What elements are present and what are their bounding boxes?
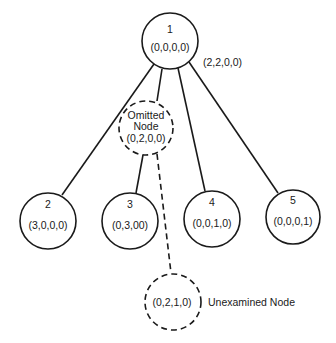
node-5: 5 (0,0,0,1) bbox=[266, 190, 320, 244]
node-2-label: 2 bbox=[45, 198, 51, 210]
edge-1-to-omitted bbox=[157, 69, 162, 101]
node-1: 1 (0,0,0,0) bbox=[142, 13, 198, 69]
node-1-label: 1 bbox=[167, 23, 173, 35]
edge-1-to-5 bbox=[189, 62, 278, 193]
unexamined-node-state: (0,2,1,0) bbox=[152, 296, 191, 308]
node-2: 2 (3,0,0,0) bbox=[20, 193, 76, 249]
node-1-state: (0,0,0,0) bbox=[150, 41, 189, 53]
unexamined-node-caption: Unexamined Node bbox=[208, 296, 295, 308]
node-3-label: 3 bbox=[127, 198, 133, 210]
node-5-state: (0,0,0,1) bbox=[273, 215, 312, 227]
node-2-state: (3,0,0,0) bbox=[28, 219, 67, 231]
edge-omitted-to-3 bbox=[136, 155, 143, 193]
node-4-state: (0,0,1,0) bbox=[192, 217, 231, 229]
node-4-label: 4 bbox=[209, 196, 215, 208]
omitted-node-state: (0,2,0,0) bbox=[126, 132, 165, 144]
search-tree-diagram: 1 (0,0,0,0) (2,2,0,0) Omitted Node (0,2,… bbox=[0, 0, 336, 343]
node-5-label: 5 bbox=[290, 194, 296, 206]
omitted-node-title-line2: Node bbox=[133, 120, 158, 132]
node-4: 4 (0,0,1,0) bbox=[184, 191, 240, 247]
edge-1-to-4 bbox=[178, 68, 205, 191]
node-3: 3 (0,3,00) bbox=[102, 193, 158, 249]
root-side-state-label: (2,2,0,0) bbox=[203, 56, 242, 68]
node-3-state: (0,3,00) bbox=[112, 219, 148, 231]
edge-omitted-to-unexamined bbox=[157, 154, 171, 273]
omitted-node: Omitted Node (0,2,0,0) bbox=[119, 101, 173, 155]
unexamined-node: (0,2,1,0) bbox=[145, 274, 201, 330]
